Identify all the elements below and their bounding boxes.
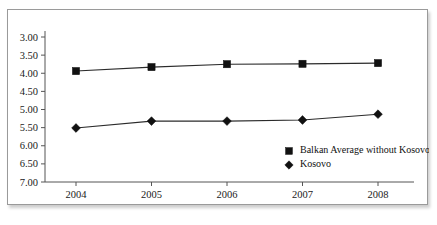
- data-point-marker: [299, 60, 306, 67]
- data-point-marker: [223, 117, 232, 126]
- data-point-marker: [148, 63, 155, 70]
- y-tick-label: 4.00: [20, 68, 38, 79]
- y-tick-label: 5.00: [20, 104, 38, 115]
- legend-marker-diamond: [285, 161, 293, 169]
- x-tick-label: 2004: [66, 189, 88, 200]
- y-tick-label: 4.50: [20, 86, 38, 97]
- y-tick-label: 6.50: [20, 158, 38, 169]
- x-tick-label: 2006: [217, 189, 238, 200]
- chart-plot-area: 3.003.504.004.505.005.506.006.507.002004…: [8, 10, 429, 206]
- page-canvas: 3.003.504.004.505.005.506.006.507.002004…: [0, 0, 437, 225]
- y-tick-label: 6.00: [20, 140, 38, 151]
- data-point-marker: [223, 61, 230, 68]
- y-tick-label: 5.50: [20, 122, 38, 133]
- data-point-marker: [72, 67, 79, 74]
- data-point-marker: [374, 60, 381, 67]
- x-tick-label: 2007: [292, 189, 313, 200]
- legend-label-2: Kosovo: [300, 158, 331, 169]
- line-chart: 3.003.504.004.505.005.506.006.507.002004…: [8, 10, 429, 206]
- y-tick-label: 3.00: [20, 32, 38, 43]
- data-point-marker: [72, 124, 81, 133]
- series-1: [72, 60, 381, 75]
- data-point-marker: [298, 116, 307, 125]
- data-point-marker: [147, 117, 156, 126]
- y-tick-label: 3.50: [20, 50, 38, 61]
- legend-label-1: Balkan Average without Kosovo: [300, 144, 429, 155]
- x-tick-label: 2008: [368, 189, 389, 200]
- cropped-caption-remnant: [118, 0, 328, 4]
- data-point-marker: [374, 110, 383, 119]
- series-2: [72, 110, 383, 133]
- y-tick-label: 7.00: [20, 177, 38, 188]
- legend-marker-square: [286, 148, 293, 155]
- chart-frame: 3.003.504.004.505.005.506.006.507.002004…: [7, 9, 428, 205]
- x-tick-label: 2005: [141, 189, 162, 200]
- chart-legend: Balkan Average without KosovoKosovo: [285, 144, 429, 169]
